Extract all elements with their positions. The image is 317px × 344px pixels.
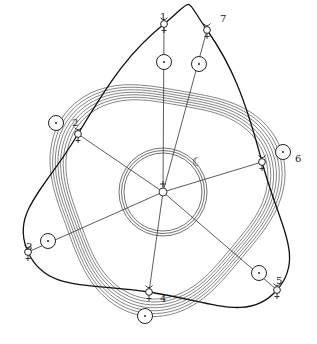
position-label: 1 xyxy=(160,11,166,22)
mercury-path xyxy=(23,4,289,307)
sun-icon xyxy=(192,57,207,72)
sun-icon xyxy=(252,266,267,281)
position-label: 3 xyxy=(26,241,32,252)
bodies: ☾ xyxy=(25,18,291,324)
position-label: 4 xyxy=(160,293,166,304)
mercury-icon xyxy=(259,156,266,172)
sun-icon xyxy=(41,234,56,249)
position-label: 5 xyxy=(276,275,282,286)
position-label: 6 xyxy=(295,153,301,164)
position-label: 7 xyxy=(220,13,226,24)
sun-icon xyxy=(276,145,291,160)
sun-icon xyxy=(157,55,172,70)
sun-icon xyxy=(138,309,153,324)
sun-icon xyxy=(49,116,64,131)
position-label: 2 xyxy=(72,117,78,128)
mercury-icon xyxy=(146,286,153,302)
moon-icon: ☾ xyxy=(192,155,203,169)
sight-lines xyxy=(28,24,277,292)
center-earth-icon xyxy=(159,188,167,196)
mercury-orbit-diagram: ☾ 1234567 xyxy=(0,0,317,344)
